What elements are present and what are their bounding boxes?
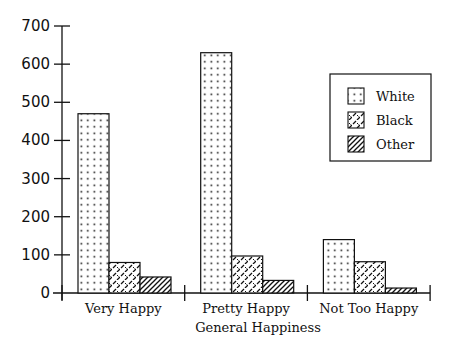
y-tick-label: 700 — [21, 17, 50, 35]
y-tick-label: 0 — [40, 284, 50, 302]
x-category-label: Pretty Happy — [202, 301, 290, 316]
legend-label: White — [376, 89, 415, 104]
y-tick-label: 400 — [21, 131, 50, 149]
legend: WhiteBlackOther — [330, 74, 431, 161]
bar-other — [140, 277, 171, 293]
legend-swatch-white — [348, 88, 364, 104]
bar-white — [78, 114, 109, 293]
bar-black — [232, 256, 263, 293]
bar-chart: 0100200300400500600700 Very HappyPretty … — [0, 0, 452, 357]
bar-white — [323, 240, 354, 293]
x-axis-title: General Happiness — [195, 320, 321, 335]
legend-swatch-black — [348, 112, 364, 128]
y-tick-label: 500 — [21, 93, 50, 111]
bar-black — [354, 262, 385, 293]
bar-white — [201, 53, 232, 293]
y-tick-label: 300 — [21, 170, 50, 188]
y-tick-label: 600 — [21, 55, 50, 73]
y-tick-label: 100 — [21, 246, 50, 264]
bar-black — [109, 262, 140, 293]
x-category-label: Very Happy — [84, 301, 162, 316]
legend-swatch-other — [348, 136, 364, 152]
x-category-label: Not Too Happy — [319, 301, 419, 316]
legend-label: Black — [376, 113, 413, 128]
y-axis: 0100200300400500600700 — [21, 17, 70, 302]
bar-other — [263, 280, 294, 293]
legend-label: Other — [376, 137, 415, 152]
y-tick-label: 200 — [21, 208, 50, 226]
bar-other — [385, 288, 416, 293]
